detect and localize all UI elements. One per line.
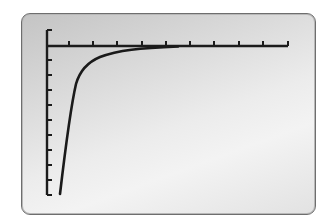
- graph-plot: [0, 0, 317, 219]
- calculator-display: [0, 0, 317, 219]
- axes: [47, 30, 288, 195]
- function-curve: [60, 47, 178, 195]
